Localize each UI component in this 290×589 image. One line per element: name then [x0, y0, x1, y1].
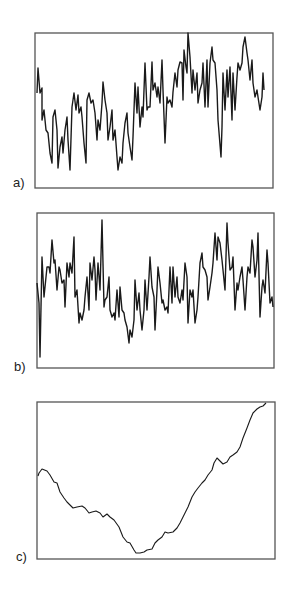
plots-canvas: [0, 0, 290, 589]
panel-a-trace: [37, 33, 264, 170]
figure: a) b) c): [0, 0, 290, 589]
panel-b: [37, 213, 274, 368]
panel-a: [35, 33, 273, 188]
panel-c-label: c): [16, 549, 27, 564]
panel-c-frame: [37, 402, 275, 559]
panel-b-trace: [37, 220, 273, 357]
panel-c-trace: [38, 403, 266, 553]
panel-a-label: a): [13, 175, 25, 190]
panel-b-label: b): [14, 359, 26, 374]
panel-c: [37, 402, 275, 559]
